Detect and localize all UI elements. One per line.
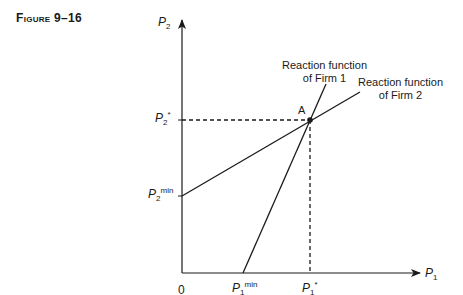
x-axis-label: P1 xyxy=(425,266,437,282)
p2-min-label: P2min xyxy=(148,186,173,203)
point-a-label: A xyxy=(298,104,305,116)
origin-label: 0 xyxy=(178,283,185,295)
firm2-reaction-line xyxy=(182,92,360,196)
p1-min-label: P1min xyxy=(232,280,257,295)
p2-star-label: P2* xyxy=(155,110,171,127)
p1-star-label: P1* xyxy=(302,280,318,295)
y-axis-label: P2 xyxy=(158,15,170,31)
chart-canvas xyxy=(0,0,463,295)
firm1-reaction-line xyxy=(243,84,326,273)
firm1-annotation: Reaction function of Firm 1 xyxy=(282,59,367,85)
firm2-annotation: Reaction function of Firm 2 xyxy=(358,76,443,102)
equilibrium-point-a xyxy=(307,117,313,123)
